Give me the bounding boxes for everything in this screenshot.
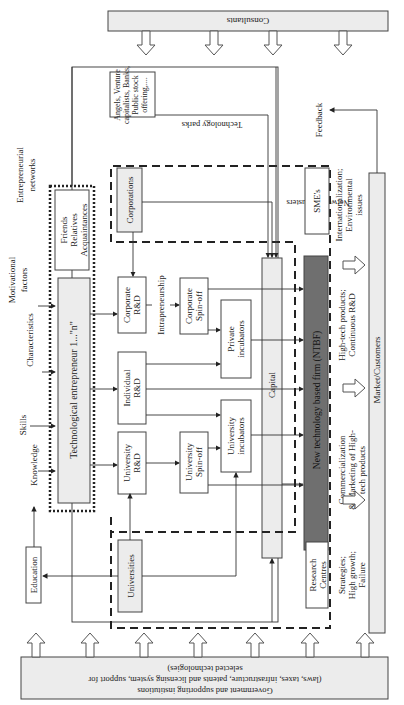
corporations-label: Corporations	[125, 176, 135, 223]
ntbf-ecosystem-diagram: Consultants Government and supporting in…	[0, 0, 404, 705]
capital-label: Capital	[267, 372, 277, 398]
networks-label-1: Entrepreneurial	[15, 147, 25, 203]
strategies-label-2: High growth;	[347, 551, 357, 599]
government-label-3: selected technologies)	[167, 664, 242, 674]
smes-label: SME's	[312, 189, 322, 213]
international-label-3: issues	[354, 194, 364, 216]
government-banner: Government and supporting institutions (…	[21, 657, 388, 699]
corporate-spinoff-label-1: Corporate	[184, 288, 194, 324]
university-spinoff-label-2: Spin-off	[194, 447, 204, 477]
corporate-rd-label-1: Corporate	[122, 287, 132, 323]
ntbf-label: New technology based firm (NTBF)	[312, 331, 323, 469]
consultants-banner: Consultants	[108, 11, 388, 31]
characteristics-label: Characteristics	[25, 313, 35, 367]
university-incubators-label-2: incubators	[236, 417, 246, 455]
capital-box	[262, 258, 282, 558]
research-centres-label-1: Research	[308, 558, 318, 591]
investors-label-3: Public stock	[131, 75, 140, 114]
technology-parks-label: Technology parks	[182, 120, 243, 130]
international-label-1: Internationalization;	[334, 169, 344, 242]
hightech-label-1: High-tech products;	[337, 289, 347, 361]
acquaintances-label: Acquaintances	[79, 203, 89, 256]
university-incubators-label-1: University	[226, 417, 236, 455]
individual-rd-label-1: Individual	[122, 369, 132, 406]
investors-label-4: offering,....	[140, 77, 149, 113]
entrepreneur-label: Technological entrepreneur 1..."n"	[68, 321, 79, 459]
international-label-2: Environmental	[344, 178, 354, 232]
university-spinoff-label-1: University	[184, 443, 194, 481]
relatives-label: Relatives	[69, 213, 79, 247]
intrapreneurship-text: Intrapreneurship	[156, 275, 166, 335]
corporate-spinoff-label-2: Spin-off	[194, 291, 204, 321]
universities-label: Universities	[126, 554, 136, 598]
private-incubators-label-1: Private	[226, 326, 236, 352]
networks-label-2: networks	[27, 158, 37, 191]
consultant-arrows	[137, 31, 352, 55]
feedback-label: Feedback	[314, 102, 324, 137]
individual-rd-label-2: R&D	[132, 378, 142, 398]
skills-label: Skills	[18, 414, 28, 435]
knowledge-label: Knowledge	[29, 444, 39, 486]
education-label: Education	[29, 556, 39, 593]
government-label-1: Government and supporting institutions	[137, 686, 272, 696]
investors-label-2: capitalists, Banks,	[122, 66, 131, 124]
government-arrows	[27, 633, 374, 657]
commercialization-label-1: Commercialization	[337, 435, 347, 504]
strategies-label-1: Strategies;	[337, 556, 347, 594]
hightech-label-2: Continuous R&D	[347, 293, 357, 357]
investors-label-1: Angels, Venture	[113, 69, 122, 121]
research-centres-label-2: Centres	[318, 561, 328, 589]
strategies-label-3: Failure	[357, 562, 367, 588]
consultants-label: Consultants	[226, 16, 269, 26]
motivational-label-2: factors	[19, 267, 29, 292]
market-customers-label: Market/Customers	[372, 336, 382, 403]
private-incubators-label-2: incubators	[236, 320, 246, 358]
commercialization-label-3: tech products	[357, 445, 367, 494]
motivational-label-1: Motivational	[7, 256, 17, 303]
university-rd-label-1: University	[122, 444, 132, 482]
government-label-2: (laws, taxes, infrastructure, patents an…	[88, 675, 321, 685]
friends-label: Friends	[59, 216, 69, 243]
corporate-rd-label-2: R&D	[132, 295, 142, 315]
university-rd-label-2: R&D	[132, 453, 142, 473]
